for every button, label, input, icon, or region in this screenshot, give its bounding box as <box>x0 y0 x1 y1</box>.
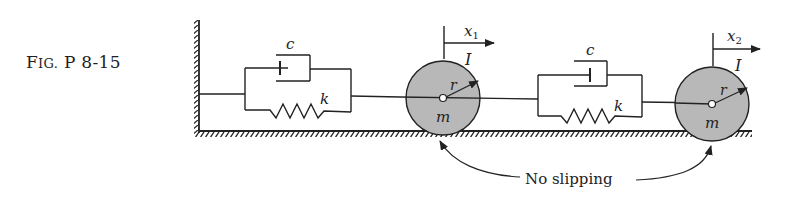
spring-damper-1 <box>199 55 400 118</box>
damper-label-c2: c <box>586 41 595 59</box>
mechanical-system-diagram: c k x1 I r m c k x2 I r m <box>0 0 798 203</box>
no-slipping-label: No slipping <box>525 170 613 188</box>
spring-label-k2: k <box>614 97 623 115</box>
x1-label: x1 <box>464 22 479 41</box>
inertia-label-2: I <box>734 56 742 75</box>
damper-label-c1: c <box>286 35 295 53</box>
fixed-wall <box>194 20 199 134</box>
x2-label: x2 <box>727 27 742 46</box>
mass-label-2: m <box>705 114 719 132</box>
ground <box>195 131 752 137</box>
inertia-label-1: I <box>464 50 472 69</box>
mass-label-1: m <box>436 108 450 126</box>
spring-label-k1: k <box>320 90 329 108</box>
disk-1 <box>400 26 538 135</box>
